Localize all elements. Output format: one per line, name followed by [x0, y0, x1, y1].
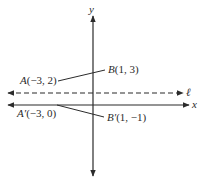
point-a-prime-label: A′(−3, 0) [16, 107, 57, 120]
point-a-prime-coords: (−3, 0) [26, 107, 56, 120]
point-b-coords: (1, 3) [115, 63, 139, 76]
x-axis-label: x [191, 98, 197, 110]
y-axis-label: y [88, 3, 94, 15]
segment-ab [58, 70, 105, 81]
segment-a-prime-b-prime [57, 105, 104, 117]
line-l-label: ℓ [186, 86, 191, 98]
point-a-prime-name: A′ [16, 107, 27, 119]
point-a-label: A(−3, 2) [19, 74, 57, 87]
point-b-label: B(1, 3) [108, 63, 139, 76]
point-b-prime-coords: (1, −1) [116, 111, 146, 124]
point-a-coords: (−3, 2) [27, 74, 57, 87]
reflection-diagram: y x ℓ A(−3, 2) B(1, 3) A′(−3, 0) B′(1, −… [0, 0, 203, 183]
point-b-prime-label: B′(1, −1) [107, 111, 147, 124]
